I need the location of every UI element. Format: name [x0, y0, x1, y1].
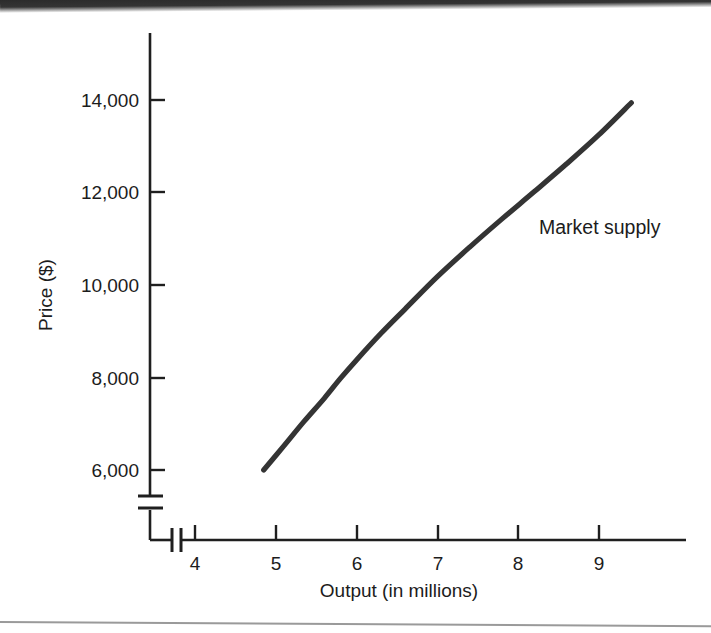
x-axis-ticks [195, 525, 599, 540]
x-axis-break-mark [172, 528, 181, 552]
y-axis-group: 14,000 12,000 10,000 8,000 6,000 Price (… [35, 33, 165, 540]
y-tick-label-12000: 12,000 [81, 182, 139, 203]
x-axis-group: 4 5 6 7 8 9 Output (in millions) [150, 525, 686, 601]
market-supply-curve [264, 103, 632, 470]
x-axis-title: Output (in millions) [320, 580, 478, 601]
x-tick-label-4: 4 [190, 553, 201, 574]
supply-curve-figure: 14,000 12,000 10,000 8,000 6,000 Price (… [0, 0, 711, 633]
market-supply-label: Market supply [539, 216, 661, 238]
plot-area [264, 103, 632, 470]
x-tick-label-9: 9 [594, 553, 605, 574]
y-tick-label-14000: 14,000 [81, 90, 139, 111]
y-axis-ticks [150, 100, 165, 470]
chart-canvas: 14,000 12,000 10,000 8,000 6,000 Price (… [0, 0, 711, 633]
y-tick-label-10000: 10,000 [81, 275, 139, 296]
x-tick-label-7: 7 [433, 553, 444, 574]
y-tick-label-8000: 8,000 [91, 368, 139, 389]
y-axis-title: Price ($) [35, 259, 56, 331]
y-tick-label-6000: 6,000 [91, 460, 139, 481]
x-tick-label-5: 5 [271, 553, 282, 574]
y-axis-break-mark [138, 496, 163, 508]
x-tick-label-8: 8 [513, 553, 524, 574]
x-tick-label-6: 6 [352, 553, 363, 574]
